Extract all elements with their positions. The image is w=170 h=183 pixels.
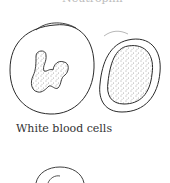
partial-cell-bottom bbox=[36, 167, 84, 183]
white-blood-cells-illustration bbox=[0, 0, 170, 183]
lymphocyte-cell bbox=[100, 39, 161, 112]
partial-cell-top bbox=[36, 23, 76, 30]
neutrophil-cell bbox=[10, 25, 94, 114]
partial-cell-top-right bbox=[104, 31, 128, 36]
figure-caption: White blood cells bbox=[16, 122, 112, 135]
